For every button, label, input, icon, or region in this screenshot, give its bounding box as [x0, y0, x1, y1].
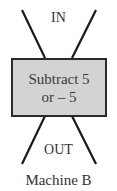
operation-line-1: Subtract 5 — [28, 70, 89, 88]
machine-operation-box: Subtract 5 or – 5 — [11, 58, 107, 117]
operation-line-2: or – 5 — [42, 88, 77, 106]
input-label: IN — [0, 10, 117, 26]
output-label: OUT — [0, 142, 117, 158]
machine-caption: Machine B — [0, 172, 117, 189]
